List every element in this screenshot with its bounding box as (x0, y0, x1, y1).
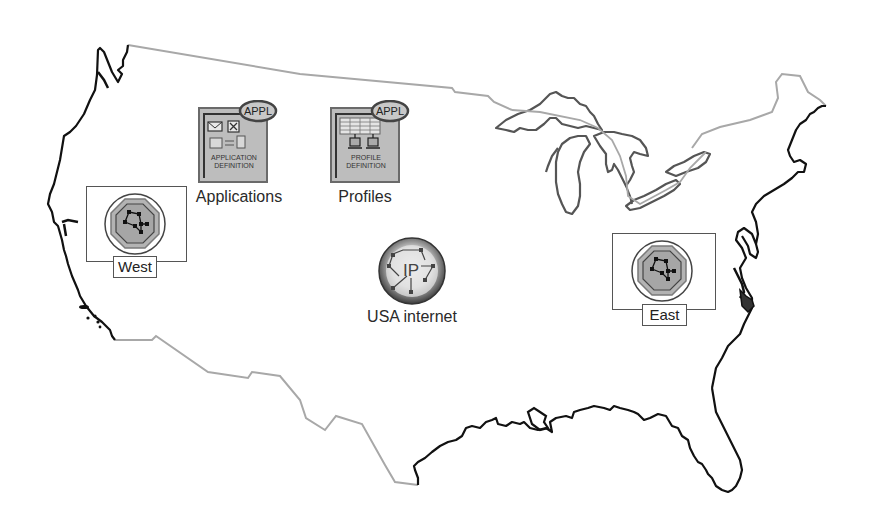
app-caption-line1: APPLICATION (211, 154, 257, 161)
northeast-border (692, 74, 826, 148)
profiles-node[interactable]: PROFILE DEFINITION APPL (330, 100, 410, 184)
profile-caption-line2: DEFINITION (346, 162, 386, 169)
outer-banks (740, 290, 754, 312)
network-server-icon (630, 239, 694, 303)
application-definition-icon: APPLICATION DEFINITION APPL (198, 100, 278, 184)
gulf-coastline (414, 388, 742, 492)
northern-border (128, 45, 512, 110)
lakes-border (512, 110, 706, 204)
sf-bay (62, 220, 78, 236)
ip-text: IP (403, 261, 419, 280)
east-label: East (642, 304, 687, 326)
profiles-label: Profiles (330, 188, 400, 206)
profile-definition-icon: PROFILE DEFINITION APPL (330, 100, 410, 184)
lake-michigan (556, 136, 590, 214)
southern-border (115, 336, 418, 485)
appl-badge-text: APPL (376, 105, 404, 117)
east-coastline (712, 106, 826, 388)
applications-node[interactable]: APPLICATION DEFINITION APPL (198, 100, 270, 184)
lake-superior (496, 92, 602, 132)
applications-label: Applications (193, 188, 285, 206)
puget-sound (98, 72, 108, 88)
mississippi-delta (528, 408, 548, 430)
ip-network-globe-icon[interactable]: IP (377, 236, 447, 306)
channel-islands (79, 305, 101, 328)
lake-erie (626, 180, 680, 210)
profile-caption-line1: PROFILE (351, 154, 381, 161)
west-label: West (113, 256, 157, 278)
usa-internet-label: USA internet (362, 308, 462, 326)
appl-badge-text: APPL (244, 105, 272, 117)
network-server-icon (103, 192, 167, 256)
app-caption-line2: DEFINITION (214, 162, 254, 169)
